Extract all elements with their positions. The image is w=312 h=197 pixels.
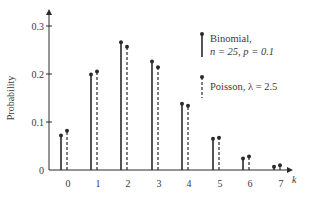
stems (59, 40, 282, 170)
y-tick-label: 0.1 (32, 117, 45, 128)
poisson-stem (186, 104, 190, 170)
legend-binomial-line2: n = 25, p = 0.1 (210, 46, 274, 57)
binomial-stem (59, 133, 63, 170)
x-tick-label: 6 (248, 178, 253, 189)
poisson-stem (247, 155, 251, 170)
binomial-stem (180, 102, 184, 170)
x-tick-label: 3 (157, 178, 162, 189)
y-tick-label: 0 (39, 165, 44, 176)
x-tick-label: 1 (96, 178, 101, 189)
poisson-stem (95, 70, 99, 170)
x-tick-label: 2 (126, 178, 131, 189)
legend-item-binomial: Binomial, n = 25, p = 0.1 (200, 32, 274, 57)
y-tick-label: 0.3 (32, 21, 45, 32)
legend-binomial-line1: Binomial, (210, 33, 252, 44)
legend: Binomial, n = 25, p = 0.1 Poisson, λ = 2… (200, 32, 277, 98)
y-axis-title: Probability (5, 76, 16, 120)
x-ticks: 01234567 (66, 178, 284, 189)
binomial-stem (89, 72, 93, 170)
poisson-stem (125, 45, 129, 170)
legend-item-poisson: Poisson, λ = 2.5 (200, 75, 277, 98)
binomial-stem (272, 165, 276, 170)
poisson-stem (65, 129, 69, 170)
y-tick-label: 0.2 (32, 69, 45, 80)
binomial-stem (150, 60, 154, 170)
x-tick-label: 0 (66, 178, 71, 189)
x-tick-label: 5 (218, 178, 223, 189)
legend-poisson-label: Poisson, λ = 2.5 (210, 81, 277, 92)
probability-stem-chart: 00.10.20.3 01234567 Probability k Binomi… (0, 0, 312, 197)
x-tick-label: 7 (279, 178, 284, 189)
binomial-stem (211, 137, 215, 170)
poisson-stem (156, 65, 160, 170)
poisson-stem (217, 136, 221, 170)
binomial-stem (241, 156, 245, 170)
poisson-stem (278, 163, 282, 170)
x-axis-title: k (292, 174, 297, 185)
x-tick-label: 4 (187, 178, 192, 189)
binomial-stem (119, 40, 123, 170)
